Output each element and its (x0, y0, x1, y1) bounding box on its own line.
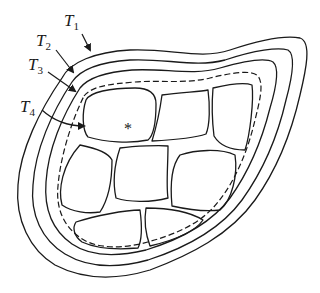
label-t4: T4 (20, 97, 35, 118)
cell-center-right (171, 150, 235, 210)
cell-bottom-left (74, 210, 141, 249)
cell-marked (83, 88, 156, 142)
layer-t3-outline (46, 60, 277, 255)
layer-t1-outline (18, 37, 307, 277)
svg-text:T4: T4 (20, 97, 35, 118)
cell-top-right (212, 84, 252, 150)
label-t1: T1 (64, 11, 79, 32)
svg-text:T1: T1 (64, 11, 79, 32)
arrow-t3-icon (48, 72, 75, 91)
diagram-canvas: * T1 T2 T3 T4 (0, 0, 320, 293)
svg-text:T2: T2 (36, 31, 51, 52)
arrow-t2-icon (56, 50, 73, 72)
cells (61, 84, 253, 249)
arrow-t1-icon (82, 34, 90, 50)
label-t3: T3 (28, 55, 43, 76)
cell-center (114, 146, 168, 202)
dashed-boundary (58, 72, 261, 246)
cell-top-mid (152, 90, 209, 141)
label-t2: T2 (36, 31, 51, 52)
cell-left-mid (61, 145, 112, 213)
svg-text:T3: T3 (28, 55, 43, 76)
asterisk-marker: * (124, 120, 132, 137)
tissue-diagram: * T1 T2 T3 T4 (0, 0, 320, 293)
